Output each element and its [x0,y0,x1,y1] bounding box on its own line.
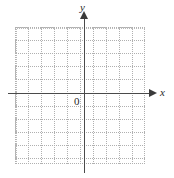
grid-line-vertical [41,27,42,164]
coordinate-plane-figure: x y 0 [0,0,174,178]
x-axis-arrow-icon [149,89,157,97]
grid-line-horizontal [15,145,145,146]
grid-line-horizontal [15,79,145,80]
grid-line-vertical [144,27,145,164]
grid-line-horizontal [15,40,145,41]
grid-line-horizontal [15,158,145,159]
grid-line-vertical [80,27,81,164]
grid-line-vertical [67,27,68,164]
grid-line-horizontal [15,106,145,107]
grid-line-vertical [15,27,16,164]
grid-line-horizontal [15,53,145,54]
origin-label: 0 [74,96,80,107]
grid-line-horizontal [15,27,145,28]
grid-line-vertical [28,27,29,164]
y-axis-label: y [80,2,85,13]
grid-line-horizontal [15,119,145,120]
grid-line-vertical [93,27,94,164]
x-axis-line [8,93,151,94]
grid-line-vertical [54,27,55,164]
grid-line-vertical [132,27,133,164]
grid-line-horizontal [15,132,145,133]
grid-line-vertical [119,27,120,164]
grid-mesh [15,27,145,164]
x-axis-label: x [160,87,165,98]
grid-line-horizontal [15,163,145,164]
grid-line-vertical [106,27,107,164]
grid-line-horizontal [15,66,145,67]
y-axis-line [84,18,85,173]
